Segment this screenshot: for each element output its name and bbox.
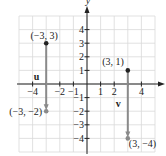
vector-label: v (116, 98, 121, 109)
x-tick-label: −2 (54, 86, 65, 97)
y-tick-label: 2 (79, 51, 84, 62)
point-label: (−3, −2) (9, 106, 42, 118)
y-tick-label: 3 (79, 38, 84, 49)
point-label: (3, 1) (102, 56, 124, 68)
y-tick-label: −2 (73, 106, 84, 117)
head-point (44, 109, 49, 114)
point-label: (−3, 3) (31, 30, 58, 42)
x-tick-label: −4 (27, 86, 38, 97)
tail-point (44, 41, 49, 46)
x-tick-label: 1 (98, 86, 103, 97)
y-tick-label: 4 (79, 24, 84, 35)
y-tick-label: −3 (73, 119, 84, 130)
x-axis-arrow-icon (158, 82, 165, 87)
y-axis-arrow-icon (85, 6, 90, 13)
tail-point (126, 68, 131, 73)
y-tick-label: 1 (79, 65, 84, 76)
vector-label: u (34, 71, 40, 82)
y-tick-label: −1 (73, 92, 84, 103)
x-tick-label: 2 (112, 86, 117, 97)
point-label: (3, −4) (129, 138, 156, 150)
y-axis-label: y (85, 0, 91, 6)
x-tick-label: 4 (139, 86, 144, 97)
y-tick-label: −4 (73, 133, 84, 144)
coordinate-plane: −4−2−11244321−1−2−3−4 u(−3, 3)(−3, −2)v(… (0, 0, 166, 156)
